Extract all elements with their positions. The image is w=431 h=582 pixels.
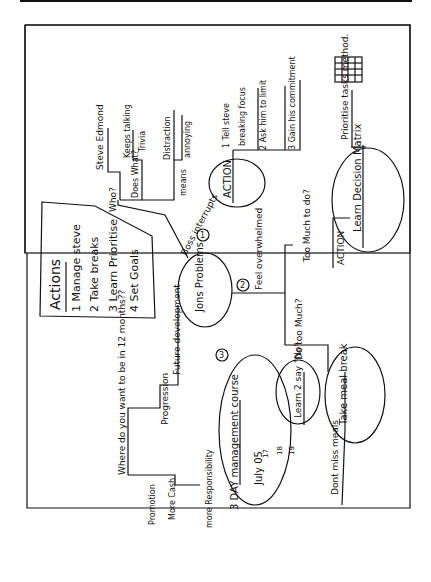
course-day-1: 17 bbox=[262, 449, 270, 458]
course-node: 3 DAY management course bbox=[229, 374, 240, 510]
branch1-marker: 1 bbox=[200, 231, 205, 240]
frame-lower bbox=[27, 253, 410, 508]
central-node-label: Jons Problems bbox=[194, 242, 205, 313]
decision-matrix-node: Learn Decision Matrix bbox=[352, 124, 363, 232]
actions-title: Actions bbox=[47, 259, 63, 310]
branch3-label: Future development bbox=[172, 284, 182, 375]
branch1-action-node: ACTION bbox=[222, 160, 233, 198]
means-value-2: annoying bbox=[183, 121, 192, 158]
prioritise-label: Prioritise tasks method. bbox=[340, 34, 350, 140]
branch1-action-2: 2 Ask him to limit bbox=[259, 80, 268, 150]
branch2-action-label: ACTION bbox=[336, 231, 346, 265]
branch2-marker: 2 bbox=[240, 281, 245, 290]
who-label: Who? bbox=[108, 187, 118, 212]
does-what-label: Does What? bbox=[131, 150, 140, 198]
branch-3: Future development 3 Progression Where d… bbox=[117, 284, 296, 528]
does-what-value-1: Keeps talking bbox=[123, 104, 132, 158]
branch3-marker: 3 bbox=[219, 351, 224, 360]
means-label: means bbox=[179, 169, 188, 196]
branch2-label: Feel overwhelmed bbox=[254, 208, 264, 290]
who-value: Steve Edmond bbox=[95, 104, 105, 170]
progression-label: Progression bbox=[160, 373, 170, 425]
does-what-value-2: Trivia bbox=[138, 131, 147, 153]
course-day-2: 18 bbox=[276, 446, 284, 455]
branch1-action-3: 3 Gain his commitment bbox=[288, 56, 297, 150]
mind-map-canvas: Actions 1 Manage steve 2 Take breaks 3 L… bbox=[0, 0, 431, 582]
branch1-action-1b: breaking focus bbox=[238, 87, 247, 146]
say-no-node: Learn 2 say "No" bbox=[293, 342, 303, 418]
goal-promotion: Promotion bbox=[148, 484, 157, 525]
action-item-2: 2 Take breaks bbox=[88, 236, 101, 312]
meals-label: Dont miss meals bbox=[330, 420, 340, 495]
means-value-1: Distraction bbox=[163, 116, 172, 160]
goal-more-cash: More Cash bbox=[168, 478, 177, 520]
meal-break-node: Take meal break bbox=[338, 343, 349, 426]
action-item-4: 4 Set Goals bbox=[128, 249, 141, 312]
course-day-3: 19 bbox=[288, 446, 296, 455]
too-much-label: Too Much to do? bbox=[302, 189, 312, 263]
actions-box: Actions 1 Manage steve 2 Take breaks 3 L… bbox=[40, 202, 155, 318]
question-label: Where do you want to be in 12 months?? bbox=[117, 289, 127, 475]
branch-1: Boss interrupts 1 Who? Steve Edmond Does… bbox=[95, 56, 300, 258]
branch1-action-1: 1 Tell steve bbox=[222, 103, 231, 148]
goal-responsibility: more Responsibility bbox=[205, 449, 214, 528]
action-item-1: 1 Manage steve bbox=[70, 224, 83, 312]
